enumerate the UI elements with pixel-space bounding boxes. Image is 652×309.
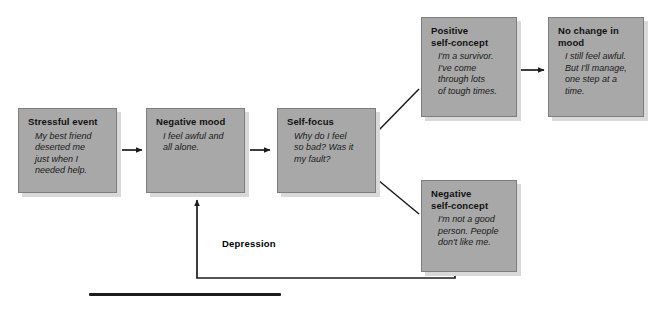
bottom-divider	[89, 293, 281, 296]
node-no-change-in-mood[interactable]: No change in mood I still feel awful. Bu…	[548, 17, 644, 117]
node-title: Positive self-concept	[431, 25, 508, 48]
node-negative-mood[interactable]: Negative mood I feel awful and all alone…	[146, 108, 245, 193]
node-body: I feel awful and all alone.	[163, 131, 236, 154]
node-title: Self-focus	[287, 116, 367, 128]
node-positive-self-concept[interactable]: Positive self-concept I'm a survivor. I'…	[421, 17, 517, 117]
node-body: I'm a survivor. I've come through lots o…	[438, 51, 508, 97]
feedback-loop-label: Depression	[222, 238, 276, 249]
node-title: Stressful event	[28, 116, 108, 128]
node-title: No change in mood	[558, 25, 635, 48]
node-negative-self-concept[interactable]: Negative self-concept I'm not a good per…	[421, 180, 517, 272]
node-body: I still feel awful. But I'll manage, one…	[565, 51, 635, 97]
depression-flowchart: Stressful event My best friend deserted …	[0, 0, 652, 309]
node-self-focus[interactable]: Self-focus Why do I feel so bad? Was it …	[277, 108, 376, 193]
connector-selffocus-to-negative	[378, 180, 419, 214]
node-body: Why do I feel so bad? Was it my fault?	[294, 131, 367, 166]
node-title: Negative self-concept	[431, 188, 508, 211]
node-body: I'm not a good person. People don't like…	[438, 214, 508, 249]
node-stressful-event[interactable]: Stressful event My best friend deserted …	[18, 108, 117, 193]
connector-selffocus-to-positive	[378, 89, 419, 131]
node-title: Negative mood	[156, 116, 236, 128]
node-body: My best friend deserted me just when I n…	[35, 131, 108, 177]
